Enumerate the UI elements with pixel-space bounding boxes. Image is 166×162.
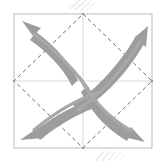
figure-container: Four curved outward arrows within square… <box>0 0 166 162</box>
diagram-canvas: Four curved outward arrows within square… <box>0 0 166 162</box>
top-left-outward-arrow <box>22 21 78 86</box>
faint-hatch-bottom <box>96 151 126 161</box>
faint-hatch-top <box>67 0 95 11</box>
